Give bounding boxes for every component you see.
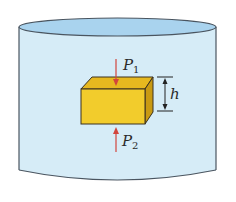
p2-subscript: 2 <box>132 140 138 151</box>
block-front-face <box>81 89 145 124</box>
h-label: h <box>170 87 180 102</box>
liquid-surface <box>19 18 216 36</box>
p1-subscript: 1 <box>133 64 139 75</box>
diagram-stage: P1 P2 h <box>0 0 236 202</box>
diagram-canvas <box>0 0 236 202</box>
submerged-block <box>81 77 153 124</box>
p2-symbol: P <box>122 132 132 150</box>
p1-label: P1 <box>123 58 139 75</box>
p1-symbol: P <box>123 56 133 74</box>
p2-label: P2 <box>122 134 138 151</box>
